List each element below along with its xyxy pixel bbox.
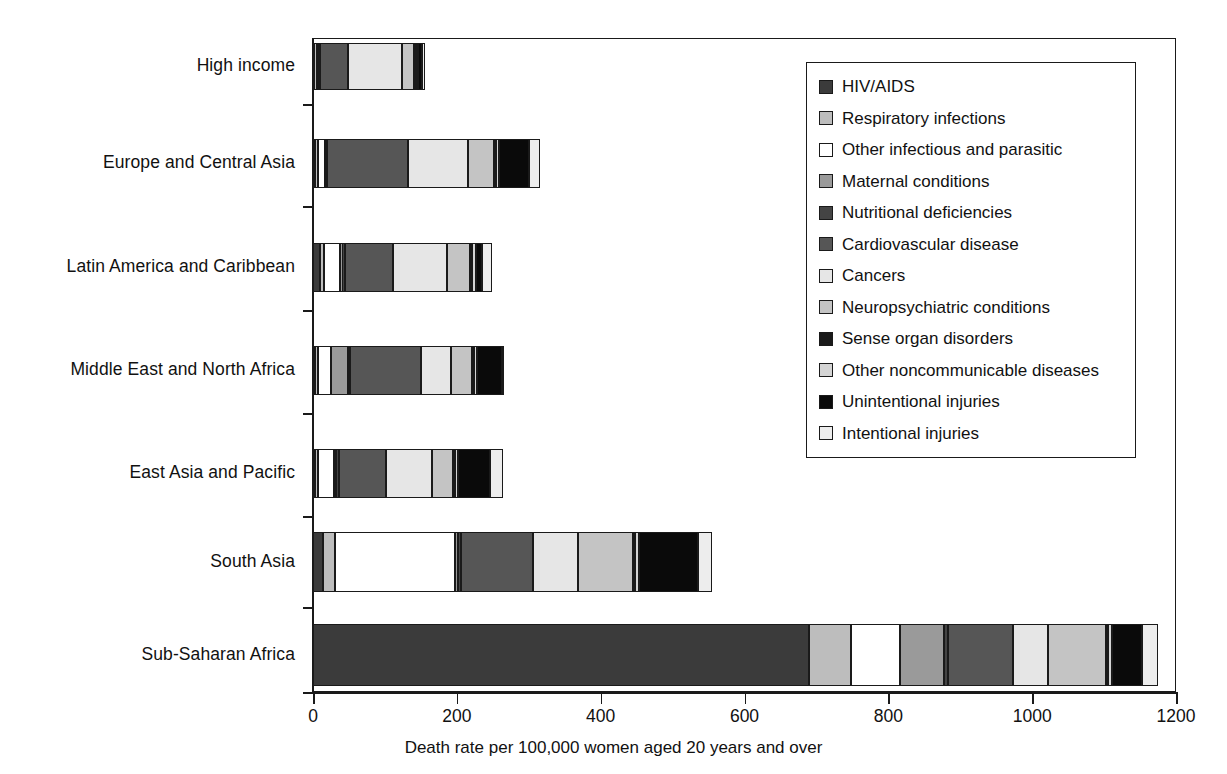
bar-row [313,346,504,395]
legend-item-label: Respiratory infections [842,110,1005,127]
x-axis-tick-label: 1200 [1157,706,1196,727]
bar-segment [386,449,431,498]
bar-segment [1112,624,1142,686]
legend-swatch-icon [819,395,833,409]
bar-segment [533,532,578,592]
bar-row [313,243,492,292]
bar-row [313,624,1158,686]
legend-item[interactable]: Nutritional deficiencies [819,197,1135,229]
legend-item-label: Cancers [842,267,905,284]
x-axis-tick [888,694,890,704]
legend-item[interactable]: Cardiovascular disease [819,229,1135,261]
legend-swatch-icon [819,426,833,440]
x-axis-tick [745,694,747,704]
bar-segment [324,243,341,292]
x-axis-tick-label: 600 [730,706,759,727]
bar-segment [1013,624,1048,686]
bar-segment [318,449,334,498]
x-axis-tick [1176,694,1178,704]
y-axis-tick [303,607,314,609]
legend-item[interactable]: Other infectious and parasitic [819,134,1135,166]
legend-swatch-icon [819,174,833,188]
bar-segment [529,139,539,188]
legend-item[interactable]: HIV/AIDS [819,71,1135,103]
x-axis-title: Death rate per 100,000 women aged 20 yea… [0,738,1227,758]
bar-segment [402,43,414,90]
bar-segment [639,532,699,592]
legend-swatch-icon [819,332,833,346]
bar-segment [1048,624,1106,686]
legend-item-label: HIV/AIDS [842,78,915,95]
bar-segment [408,139,468,188]
bar-segment [490,449,503,498]
chart-canvas: High incomeEurope and Central AsiaLatin … [0,0,1227,774]
legend-swatch-icon [819,363,833,377]
y-axis-tick [303,310,314,312]
x-axis-tick [457,694,459,704]
legend-item[interactable]: Neuropsychiatric conditions [819,292,1135,324]
chart-legend: HIV/AIDSRespiratory infectionsOther infe… [806,62,1136,458]
bar-segment [350,346,420,395]
x-axis-tick [313,694,315,704]
bar-segment [477,346,502,395]
bar-row [313,43,424,90]
legend-swatch-icon [819,237,833,251]
bar-segment [698,532,712,592]
y-axis-category-label: High income [197,55,295,76]
bar-segment [348,43,403,90]
bar-segment [331,346,348,395]
bar-row [313,139,540,188]
bar-segment [335,532,456,592]
bar-segment [900,624,945,686]
y-axis-tick [303,104,314,106]
bar-segment [422,43,424,90]
y-axis-category-label: Latin America and Caribbean [67,256,295,277]
legend-item[interactable]: Other noncommunicable diseases [819,355,1135,387]
legend-swatch-icon [819,80,833,94]
legend-item[interactable]: Cancers [819,260,1135,292]
x-axis-tick [1032,694,1034,704]
bar-segment [393,243,447,292]
y-axis-category-label: Middle East and North Africa [70,359,295,380]
y-axis-category-label: Sub-Saharan Africa [141,644,295,665]
legend-item-label: Sense organ disorders [842,330,1013,347]
bar-segment [502,346,504,395]
x-axis-tick-label: 800 [874,706,903,727]
bar-segment [323,532,335,592]
legend-item[interactable]: Respiratory infections [819,103,1135,135]
bar-segment [461,532,533,592]
legend-item-label: Maternal conditions [842,173,989,190]
y-axis-category-label: Europe and Central Asia [103,152,295,173]
y-axis-tick [303,413,314,415]
bar-segment [432,449,454,498]
legend-swatch-icon [819,206,833,220]
y-axis-tick [303,206,314,208]
bar-segment [313,532,323,592]
legend-swatch-icon [819,143,833,157]
legend-item[interactable]: Sense organ disorders [819,323,1135,355]
bar-segment [327,139,408,188]
legend-swatch-icon [819,269,833,283]
bar-segment [320,43,347,90]
bar-segment [447,243,471,292]
legend-item[interactable]: Unintentional injuries [819,386,1135,418]
legend-item[interactable]: Intentional injuries [819,418,1135,450]
bar-segment [318,346,331,395]
bar-segment [421,346,451,395]
y-axis-tick [303,516,314,518]
bar-segment [468,139,495,188]
x-axis-tick-label: 0 [308,706,318,727]
bar-segment [313,243,320,292]
bar-segment [809,624,851,686]
y-axis-category-label: East Asia and Pacific [129,462,295,483]
bar-segment [458,449,490,498]
bar-segment [451,346,472,395]
bar-row [313,449,503,498]
legend-item-label: Other noncommunicable diseases [842,362,1099,379]
legend-item-label: Intentional injuries [842,425,979,442]
legend-swatch-icon [819,111,833,125]
legend-item[interactable]: Maternal conditions [819,166,1135,198]
bar-segment [948,624,1013,686]
legend-swatch-icon [819,300,833,314]
bar-segment [339,449,386,498]
